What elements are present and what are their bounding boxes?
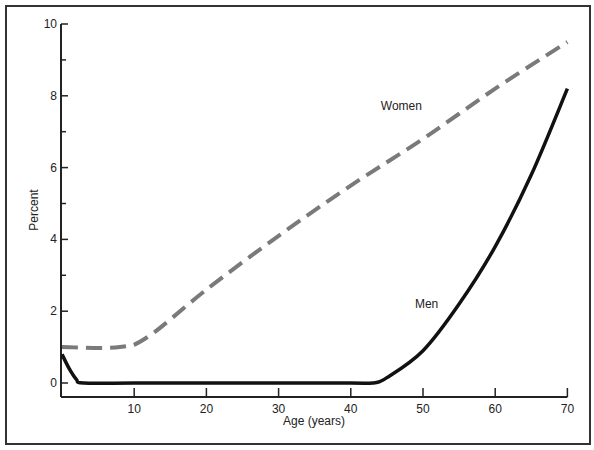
x-tick-label: 20 (200, 402, 214, 416)
frame (6, 6, 590, 444)
y-tick-label: 6 (50, 161, 57, 175)
y-tick-label: 10 (44, 17, 58, 31)
x-tick-label: 70 (561, 402, 575, 416)
x-tick-label: 40 (344, 402, 358, 416)
men-label: Men (415, 297, 438, 311)
x-tick-label: 60 (489, 402, 503, 416)
women-line (62, 42, 567, 348)
y-tick-label: 2 (50, 304, 57, 318)
men-line (62, 89, 567, 384)
women-label: Women (381, 99, 422, 113)
y-tick-label: 8 (50, 89, 57, 103)
x-tick-label: 50 (416, 402, 430, 416)
chart: 024681010203040506070 WomenMen Age (year… (0, 0, 594, 450)
y-tick-label: 4 (50, 232, 57, 246)
y-tick-label: 0 (50, 376, 57, 390)
plot-area: WomenMen (62, 42, 567, 383)
x-tick-label: 10 (128, 402, 142, 416)
y-axis-label: Percent (27, 189, 41, 231)
x-axis-label: Age (years) (283, 414, 345, 428)
